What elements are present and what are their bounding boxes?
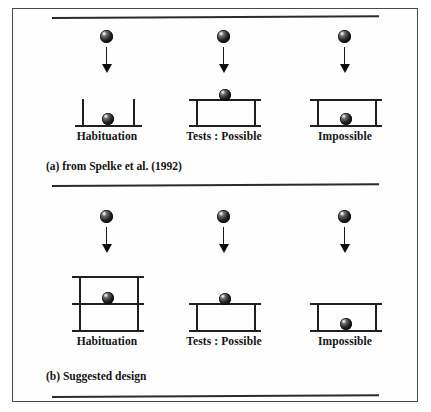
arrow-head-icon bbox=[102, 244, 112, 253]
apparatus-floor bbox=[189, 330, 261, 332]
apparatus-post-left bbox=[196, 303, 198, 330]
resting-ball-icon bbox=[102, 113, 114, 125]
apparatus-post-left bbox=[196, 99, 198, 125]
figure-root: Habituation Tests : Possible bbox=[0, 0, 431, 412]
case-label-a-impossible: Impossible bbox=[270, 130, 420, 142]
apparatus-post-right bbox=[375, 99, 377, 125]
apparatus-post-right bbox=[375, 303, 377, 330]
apparatus-floor bbox=[75, 125, 142, 127]
panel-caption-b: (b) Suggested design bbox=[46, 370, 146, 382]
apparatus-floor bbox=[310, 330, 382, 332]
arrow-head-icon bbox=[340, 244, 350, 253]
resting-ball-icon bbox=[219, 89, 231, 101]
falling-ball-icon bbox=[217, 30, 230, 43]
falling-ball-icon bbox=[217, 210, 230, 223]
apparatus-post-left bbox=[82, 99, 84, 125]
falling-ball-icon bbox=[100, 210, 113, 223]
resting-ball-icon bbox=[340, 318, 352, 330]
falling-ball-icon bbox=[338, 30, 351, 43]
resting-ball-icon bbox=[340, 113, 352, 125]
panel-caption-a: (a) from Spelke et al. (1992) bbox=[46, 160, 182, 172]
apparatus-floor bbox=[72, 330, 144, 332]
apparatus-top bbox=[310, 99, 382, 101]
apparatus-floor bbox=[310, 125, 382, 127]
apparatus-post-right bbox=[254, 99, 256, 125]
arrow-head-icon bbox=[219, 244, 229, 253]
case-label-b-impossible: Impossible bbox=[270, 335, 420, 347]
falling-ball-icon bbox=[100, 30, 113, 43]
apparatus-post-left bbox=[79, 276, 81, 330]
resting-ball-icon bbox=[219, 293, 231, 305]
apparatus-post-right bbox=[254, 303, 256, 330]
arrow-head-icon bbox=[102, 64, 112, 73]
apparatus-post-left bbox=[317, 303, 319, 330]
apparatus-post-right bbox=[133, 99, 135, 125]
arrow-head-icon bbox=[340, 64, 350, 73]
arrow-head-icon bbox=[219, 64, 229, 73]
apparatus-top bbox=[310, 303, 382, 305]
apparatus-post-right bbox=[137, 276, 139, 330]
apparatus-post-left bbox=[317, 99, 319, 125]
falling-ball-icon bbox=[338, 210, 351, 223]
apparatus-top bbox=[72, 276, 144, 278]
apparatus-floor bbox=[189, 125, 261, 127]
resting-ball-icon bbox=[102, 292, 114, 304]
